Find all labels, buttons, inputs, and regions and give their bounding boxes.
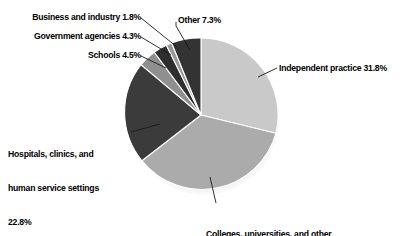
slice-label-independent-practice: Independent practice 31.8%: [279, 63, 387, 74]
pie-chart: Business and industry 1.8% Government ag…: [0, 0, 403, 236]
slice-label-hospitals-line3: 22.8%: [8, 217, 99, 228]
leader-line-business-industry: [141, 18, 177, 47]
slice-label-government-agencies: Government agencies 4.3%: [34, 31, 141, 42]
slice-label-hospitals-line1: Hospitals, clinics, and: [8, 149, 99, 160]
slice-label-schools: Schools 4.5%: [88, 50, 141, 61]
slice-label-colleges-line1: Colleges, universities, and other: [206, 229, 331, 236]
slice-label-business-industry: Business and industry 1.8%: [32, 12, 141, 23]
slice-label-other: Other 7.3%: [178, 15, 221, 26]
pie-slices: [125, 38, 279, 189]
slice-label-colleges-universities: Colleges, universities, and other academ…: [206, 206, 331, 236]
slice-label-hospitals-line2: human service settings: [8, 183, 99, 194]
slice-label-hospitals-clinics: Hospitals, clinics, and human service se…: [8, 126, 99, 236]
